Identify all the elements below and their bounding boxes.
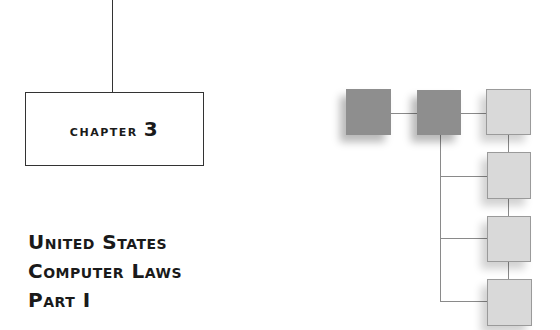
diagram-node-5: [487, 216, 531, 262]
title-line-1: United States: [28, 228, 182, 257]
connector-branch-5: [440, 238, 487, 239]
chapter-label: Chapter3: [70, 117, 159, 141]
chapter-box: Chapter3: [25, 92, 204, 166]
title-line-2: Computer Laws: [28, 257, 182, 286]
diagram-node-2: [417, 90, 461, 135]
diagram-node-3: [486, 89, 531, 135]
title-line-3: Part I: [28, 286, 182, 315]
connector-4-5: [508, 199, 509, 216]
diagram-node-4: [487, 152, 531, 199]
diagram-node-1: [346, 89, 391, 135]
diagram-node-6: [487, 279, 532, 326]
chapter-number: 3: [144, 117, 159, 141]
connector-trunk: [440, 135, 441, 302]
chapter-word: Chapter: [70, 122, 138, 140]
connector-3-4: [508, 135, 509, 152]
connector-5-6: [508, 262, 509, 279]
chapter-title: United States Computer Laws Part I: [28, 228, 182, 315]
connector-branch-4: [440, 176, 487, 177]
connector-line-top: [112, 0, 113, 92]
connector-1-2: [391, 113, 417, 114]
connector-branch-6: [440, 301, 487, 302]
connector-2-3: [461, 113, 486, 114]
